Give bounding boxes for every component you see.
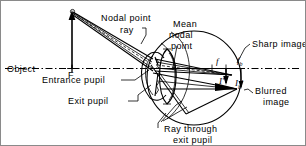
cornea bbox=[141, 52, 166, 100]
exit-pupil-ray bbox=[153, 73, 237, 91]
blurred-image-height-symbol: Ib′ bbox=[235, 79, 243, 92]
blurred-image-height-prime: ′ bbox=[241, 78, 243, 88]
diagram-linework bbox=[1, 1, 306, 146]
leader-nodal-point-ray bbox=[141, 28, 146, 44]
focal-point-F-label: F bbox=[68, 70, 74, 80]
mean-nodal-point-label-line3: point bbox=[171, 41, 193, 51]
exit-pupil-label: Exit pupil bbox=[68, 96, 109, 106]
blurred-image-label-line2: image bbox=[263, 97, 290, 107]
blurred-image-label-line1: Blurred bbox=[255, 86, 287, 96]
focal-length-symbol: f bbox=[216, 57, 219, 66]
sharp-image-height-prime: ′ bbox=[222, 76, 224, 86]
leader-entrance-pupil bbox=[121, 70, 149, 80]
mean-nodal-point-label-line1: Mean bbox=[173, 19, 197, 29]
leader-blurred-image bbox=[244, 89, 253, 93]
optics-diagram-figure: Object Nodal point ray Mean nodal point … bbox=[0, 0, 306, 146]
leader-exit-pupil bbox=[128, 85, 151, 101]
nodal-point-ray-label-line2: ray bbox=[120, 25, 134, 35]
object-label: Object bbox=[7, 64, 35, 74]
nodal-point-ray-label-line1: Nodal point bbox=[101, 13, 151, 23]
ray-through-exit-pupil-label-line2: exit pupil bbox=[173, 135, 213, 145]
iris-aperture bbox=[155, 57, 159, 96]
sharp-image-height-symbol: I′ bbox=[219, 77, 224, 86]
mean-nodal-point-label-line2: nodal bbox=[169, 30, 193, 40]
sharp-image-label: Sharp image bbox=[252, 39, 306, 49]
converging-rays-sharp-image bbox=[155, 59, 232, 75]
object-arrow bbox=[68, 9, 76, 72]
blur-focal-length-symbol: fb bbox=[237, 56, 243, 69]
ray-through-exit-pupil-label-line1: Ray through bbox=[164, 124, 217, 134]
blur-focal-length-subscript: b bbox=[240, 61, 243, 67]
